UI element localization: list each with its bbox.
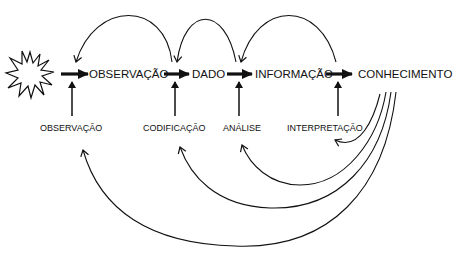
starburst-icon [6,51,54,98]
process-arrows [72,82,338,116]
node-dado: DADO [192,68,225,80]
feedback-arcs-top [76,16,336,63]
node-observacao: OBSERVAÇÃO [89,68,168,80]
process-analise: ANÁLISE [223,123,261,133]
process-observacao: OBSERVAÇÃO [40,123,102,133]
node-informacao: INFORMAÇÃO [255,68,333,80]
node-conhecimento: CONHECIMENTO [358,68,452,80]
process-codificacao: CODIFICAÇÃO [143,123,206,133]
process-interpretacao: INTERPRETAÇÃO [287,123,363,133]
